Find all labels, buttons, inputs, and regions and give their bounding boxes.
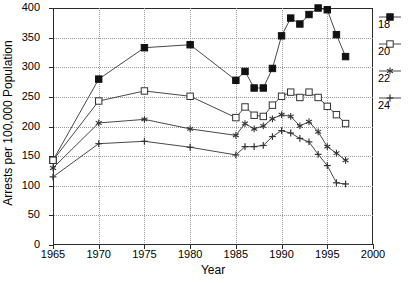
data-point-plus bbox=[95, 140, 102, 147]
x-tick-label: 1965 bbox=[41, 249, 65, 260]
legend-marker-open-square-icon bbox=[377, 35, 407, 45]
y-tick-label: 0 bbox=[34, 239, 40, 250]
data-point-plus bbox=[342, 181, 349, 188]
data-point-open-square bbox=[315, 94, 321, 100]
x-tick-label: 1990 bbox=[269, 249, 293, 260]
data-point-open-square bbox=[324, 103, 330, 109]
data-point-open-square bbox=[288, 89, 294, 95]
data-point-open-square bbox=[50, 157, 56, 163]
data-point-filled-square bbox=[96, 76, 102, 82]
data-point-open-square bbox=[187, 93, 193, 99]
data-point-filled-square bbox=[141, 44, 147, 50]
data-point-filled-square bbox=[260, 85, 266, 91]
data-point-filled-square bbox=[187, 42, 193, 48]
data-point-filled-square bbox=[342, 53, 348, 59]
data-point-asterisk bbox=[251, 125, 257, 132]
data-point-plus bbox=[287, 130, 294, 137]
x-tick-label: 1980 bbox=[178, 249, 202, 260]
data-point-plus bbox=[333, 179, 340, 186]
legend: 18202224 bbox=[377, 8, 418, 118]
plot-area bbox=[53, 8, 373, 245]
legend-item-18[interactable]: 18 bbox=[377, 8, 418, 18]
data-point-open-square bbox=[269, 102, 275, 108]
data-point-open-square bbox=[233, 114, 239, 120]
data-point-filled-square bbox=[269, 65, 275, 71]
y-tick-label: 100 bbox=[22, 180, 40, 191]
data-point-asterisk bbox=[343, 157, 349, 164]
legend-label-22: 22 bbox=[378, 73, 390, 84]
data-point-plus bbox=[141, 138, 148, 145]
data-point-open-square bbox=[260, 113, 266, 119]
data-point-filled-square bbox=[324, 7, 330, 13]
legend-marker-asterisk-icon bbox=[377, 62, 407, 72]
x-tick-label: 1970 bbox=[86, 249, 110, 260]
data-point-open-square bbox=[342, 120, 348, 126]
x-tick-label: 1975 bbox=[132, 249, 156, 260]
y-tick-label: 350 bbox=[22, 32, 40, 43]
x-axis-title: Year bbox=[53, 263, 373, 277]
y-axis-title: Arrests per 100,000 Population bbox=[0, 0, 16, 245]
legend-label-24: 24 bbox=[378, 100, 390, 111]
data-point-filled-square bbox=[288, 15, 294, 21]
chart-figure: Arrests per 100,000 Population 050100150… bbox=[0, 0, 418, 283]
data-point-plus bbox=[306, 139, 313, 146]
data-point-plus bbox=[187, 144, 194, 151]
data-point-filled-square bbox=[297, 21, 303, 27]
data-series-group bbox=[53, 8, 373, 245]
series-line-22 bbox=[53, 115, 346, 168]
y-tick-label: 50 bbox=[28, 209, 40, 220]
series-24 bbox=[50, 127, 349, 187]
legend-marker-filled-square-icon bbox=[377, 8, 407, 18]
data-point-open-square bbox=[242, 104, 248, 110]
data-point-filled-square bbox=[306, 11, 312, 17]
data-point-plus bbox=[278, 127, 285, 134]
y-tick-label: 300 bbox=[22, 61, 40, 72]
y-tick-label: 150 bbox=[22, 150, 40, 161]
y-tick-label: 400 bbox=[22, 2, 40, 13]
data-point-open-square bbox=[278, 93, 284, 99]
data-point-filled-square bbox=[233, 77, 239, 83]
y-tick-label: 200 bbox=[22, 121, 40, 132]
data-point-asterisk bbox=[260, 123, 266, 130]
x-tick-label: 1985 bbox=[224, 249, 248, 260]
legend-item-20[interactable]: 20 bbox=[377, 35, 418, 45]
data-point-open-square bbox=[306, 89, 312, 95]
data-point-filled-square bbox=[333, 31, 339, 37]
data-point-plus bbox=[251, 143, 258, 150]
data-point-filled-square bbox=[278, 33, 284, 39]
data-point-asterisk bbox=[333, 150, 339, 157]
series-22 bbox=[50, 111, 348, 171]
data-point-open-square bbox=[96, 98, 102, 104]
legend-marker-plus-icon bbox=[377, 89, 407, 99]
data-point-open-square bbox=[251, 112, 257, 118]
data-point-open-square bbox=[333, 111, 339, 117]
x-tick-label: 2000 bbox=[361, 249, 385, 260]
legend-label-18: 18 bbox=[378, 19, 390, 30]
series-20 bbox=[50, 88, 349, 164]
data-point-asterisk bbox=[324, 143, 330, 150]
data-point-plus bbox=[296, 135, 303, 142]
data-point-plus bbox=[50, 173, 57, 180]
data-point-asterisk bbox=[269, 115, 275, 122]
data-point-filled-square bbox=[315, 5, 321, 11]
legend-label-20: 20 bbox=[378, 46, 390, 57]
data-point-filled-square bbox=[251, 85, 257, 91]
data-point-open-square bbox=[141, 88, 147, 94]
data-point-filled-square bbox=[242, 68, 248, 74]
legend-item-24[interactable]: 24 bbox=[377, 89, 418, 99]
data-point-open-square bbox=[297, 94, 303, 100]
series-line-18 bbox=[53, 8, 346, 160]
legend-item-22[interactable]: 22 bbox=[377, 62, 418, 72]
y-axis-title-text: Arrests per 100,000 Population bbox=[1, 40, 15, 205]
y-tick-label: 250 bbox=[22, 91, 40, 102]
x-tick-label: 1995 bbox=[315, 249, 339, 260]
